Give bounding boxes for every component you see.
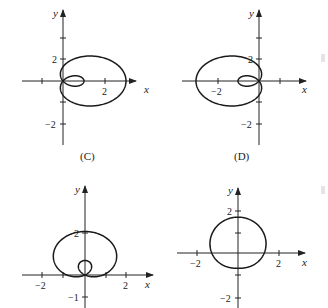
graph-f: −2 2 2 −2 x y bbox=[177, 184, 325, 308]
x-tick-label: 2 bbox=[276, 258, 281, 269]
y-axis-label: y bbox=[248, 7, 254, 19]
scan-artifact bbox=[321, 54, 325, 62]
scan-artifact bbox=[321, 186, 325, 194]
x-tick-label: −2 bbox=[211, 86, 222, 97]
y-tick-label: −2 bbox=[241, 119, 252, 130]
graph-e: −2 2 2 −1 x y bbox=[22, 183, 153, 308]
y-tick-label: 2 bbox=[227, 206, 232, 217]
x-tick-label: −2 bbox=[35, 280, 46, 291]
y-tick-label: −2 bbox=[220, 293, 231, 304]
y-tick-label: −1 bbox=[68, 292, 79, 303]
x-axis-label: x bbox=[301, 83, 307, 95]
polar-graphs-figure: 2 2 −2 x y −2 2 −2 x y (C) (D) −2 bbox=[0, 0, 328, 308]
y-axis-label: y bbox=[74, 183, 80, 195]
y-axis-label: y bbox=[227, 184, 233, 196]
graph-d: −2 2 −2 x y bbox=[182, 7, 325, 145]
caption-c: (C) bbox=[80, 150, 95, 163]
caption-d: (D) bbox=[234, 150, 250, 163]
x-axis-label: x bbox=[144, 278, 150, 290]
x-axis-label: x bbox=[301, 256, 307, 268]
x-tick-label: 2 bbox=[102, 86, 107, 97]
x-axis-label: x bbox=[143, 83, 149, 95]
x-tick-label: 2 bbox=[123, 280, 128, 291]
y-tick-label: −2 bbox=[45, 119, 56, 130]
y-tick-label: 2 bbox=[52, 54, 57, 65]
x-tick-label: −2 bbox=[190, 258, 201, 269]
y-axis-label: y bbox=[52, 7, 58, 19]
graph-c: 2 2 −2 x y bbox=[22, 7, 149, 145]
